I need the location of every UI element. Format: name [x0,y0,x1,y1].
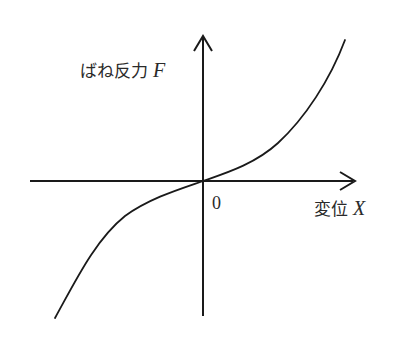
force-displacement-curve [55,40,345,318]
y-axis-label-text: ばね反力 [80,61,148,81]
x-axis-label: 変位X [314,198,365,218]
x-axis-variable: X [353,197,365,219]
diagram-canvas: ばね反力F 0 変位X [0,0,404,344]
y-axis-label: ばね反力F [80,60,165,80]
plot-area [0,0,404,344]
origin-label: 0 [212,194,221,212]
x-axis-label-text: 変位 [314,199,348,219]
y-axis-variable: F [153,59,165,81]
